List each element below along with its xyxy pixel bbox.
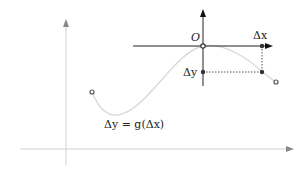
curve-start-point [90,90,94,94]
delta-x-label: Δx [253,30,267,41]
diagram-canvas: O Δx Δy Δy = g(Δx) [0,0,304,173]
delta-x-point [260,44,264,48]
origin-point [201,44,205,48]
origin-label: O [191,32,200,43]
diagram-svg [0,0,304,173]
delta-y-label: Δy [183,67,197,78]
function-curve [92,45,276,115]
curve-end-point [274,80,278,84]
delta-y-point [201,70,205,74]
projection-lines [203,46,262,72]
equation-label: Δy = g(Δx) [104,119,164,130]
curve-sample-point [260,70,264,74]
